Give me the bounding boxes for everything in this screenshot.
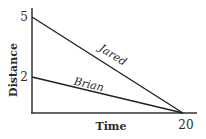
y-tick-5: 5 (20, 10, 28, 24)
series-label-jared: Jared (95, 41, 129, 69)
y-tick-2: 2 (20, 70, 28, 84)
x-tick-20: 20 (178, 118, 193, 132)
series-line-brian (32, 77, 183, 113)
distance-time-chart: 5 2 20 Time Distance Jared Brian (0, 0, 206, 139)
x-axis-label: Time (95, 120, 126, 133)
series-label-brian: Brian (71, 75, 105, 95)
series-line-jared (32, 17, 183, 113)
y-axis-label: Distance (7, 43, 20, 97)
